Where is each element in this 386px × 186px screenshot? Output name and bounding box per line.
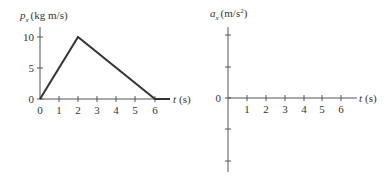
y-tick-5: 5 bbox=[29, 62, 35, 74]
x-tick-3: 3 bbox=[94, 104, 100, 116]
y-tick-0: 0 bbox=[216, 92, 222, 104]
x-tick-4: 4 bbox=[301, 103, 307, 115]
momentum-line bbox=[40, 37, 170, 99]
x-tick-3: 3 bbox=[282, 103, 288, 115]
x-tick-5: 5 bbox=[319, 103, 325, 115]
x-tick-1: 1 bbox=[244, 103, 250, 115]
x-tick-4: 4 bbox=[113, 104, 119, 116]
x-tick-0: 0 bbox=[37, 104, 43, 116]
momentum-x-axis-title: t(s) bbox=[173, 93, 191, 106]
charts-canvas: px(kg m/s) 10 5 0 0 1 2 3 4 5 6 t(s) ax bbox=[0, 0, 386, 186]
x-tick-6: 6 bbox=[152, 104, 158, 116]
x-tick-2: 2 bbox=[263, 103, 269, 115]
x-tick-5: 5 bbox=[132, 104, 138, 116]
x-tick-1: 1 bbox=[56, 104, 62, 116]
acceleration-y-axis-title: ax(m/s2) bbox=[210, 7, 248, 22]
acceleration-chart: ax(m/s2) 0 1 2 3 4 5 6 t(s) bbox=[210, 7, 377, 172]
momentum-chart: px(kg m/s) 10 5 0 0 1 2 3 4 5 6 t(s) bbox=[19, 9, 191, 116]
y-tick-10: 10 bbox=[23, 31, 35, 43]
y-tick-0: 0 bbox=[29, 93, 35, 105]
x-tick-6: 6 bbox=[338, 103, 344, 115]
acceleration-x-axis-title: t(s) bbox=[359, 92, 377, 105]
x-tick-2: 2 bbox=[75, 104, 81, 116]
momentum-y-axis-title: px(kg m/s) bbox=[19, 9, 68, 24]
